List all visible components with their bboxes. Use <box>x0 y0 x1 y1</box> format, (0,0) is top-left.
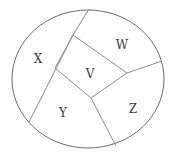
region-diagram-svg: X W V Y Z <box>0 0 176 158</box>
chord-top <box>73 9 89 35</box>
chord-right <box>127 61 162 73</box>
region-label-x: X <box>34 52 43 66</box>
region-label-y: Y <box>58 106 68 120</box>
chord-bottom <box>91 98 116 146</box>
region-label-w: W <box>116 38 129 52</box>
region-label-z: Z <box>129 102 137 116</box>
region-label-v: V <box>85 67 95 81</box>
diagram-canvas: X W V Y Z <box>0 0 176 158</box>
